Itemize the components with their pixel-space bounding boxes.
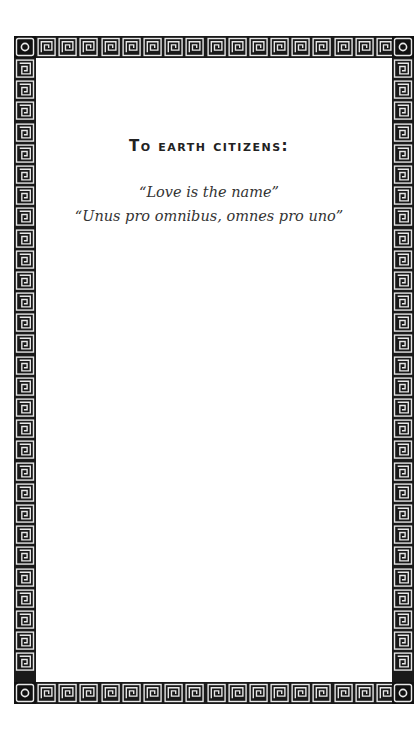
greek-key-tile-icon <box>392 651 414 672</box>
greek-key-tile-icon <box>57 36 78 58</box>
greek-key-tile-icon <box>14 291 36 312</box>
greek-key-tile-icon <box>14 461 36 482</box>
greek-key-tile-icon <box>14 630 36 651</box>
greek-key-tile-icon <box>14 503 36 524</box>
greek-key-tile-icon <box>354 682 375 704</box>
quote-line-2: “Unus pro omnibus, omnes pro uno” <box>0 208 418 224</box>
greek-key-tile-icon <box>392 270 414 291</box>
greek-key-tile-icon <box>14 482 36 503</box>
greek-key-tile-icon <box>14 567 36 588</box>
greek-key-tile-icon <box>392 588 414 609</box>
quote-line-1: “Love is the name” <box>0 184 418 200</box>
greek-key-tile-icon <box>14 376 36 397</box>
greek-key-tile-icon <box>392 228 414 249</box>
greek-key-tile-icon <box>392 439 414 460</box>
corner-circle-icon <box>14 36 36 58</box>
greek-key-tile-icon <box>14 355 36 376</box>
greek-key-tile-icon <box>121 682 142 704</box>
greek-key-tile-icon <box>392 58 414 79</box>
greek-key-tile-icon <box>36 36 57 58</box>
corner-circle-icon <box>392 682 414 704</box>
greek-key-tile-icon <box>392 249 414 270</box>
greek-key-tile-icon <box>392 312 414 333</box>
greek-key-tile-icon <box>206 682 227 704</box>
greek-key-tile-icon <box>14 79 36 100</box>
greek-key-tile-icon <box>392 291 414 312</box>
corner-circle-icon <box>392 36 414 58</box>
greek-key-tile-icon <box>184 682 205 704</box>
greek-key-tile-icon <box>227 682 248 704</box>
border-top <box>36 36 392 58</box>
greek-key-tile-icon <box>354 36 375 58</box>
greek-key-tile-icon <box>142 36 163 58</box>
greek-key-tile-icon <box>392 503 414 524</box>
greek-key-tile-icon <box>57 682 78 704</box>
greek-key-tile-icon <box>333 36 354 58</box>
greek-key-tile-icon <box>392 567 414 588</box>
greek-key-tile-icon <box>14 249 36 270</box>
greek-key-tile-icon <box>14 609 36 630</box>
greek-key-tile-icon <box>14 164 36 185</box>
greek-key-tile-icon <box>227 36 248 58</box>
greek-key-tile-icon <box>290 682 311 704</box>
greek-key-tile-icon <box>36 682 57 704</box>
greek-key-tile-icon <box>392 418 414 439</box>
greek-key-tile-icon <box>100 682 121 704</box>
greek-key-tile-icon <box>311 682 332 704</box>
dedication-heading: To earth citizens: <box>0 137 418 155</box>
greek-key-tile-icon <box>269 682 290 704</box>
greek-key-tile-icon <box>392 79 414 100</box>
greek-key-tile-icon <box>392 397 414 418</box>
greek-key-tile-icon <box>14 588 36 609</box>
greek-key-tile-icon <box>142 682 163 704</box>
greek-key-tile-icon <box>14 270 36 291</box>
greek-key-tile-icon <box>78 36 99 58</box>
greek-key-tile-icon <box>14 100 36 121</box>
greek-key-tile-icon <box>14 651 36 672</box>
greek-key-tile-icon <box>14 439 36 460</box>
greek-key-tile-icon <box>392 376 414 397</box>
greek-key-tile-icon <box>392 164 414 185</box>
greek-key-tile-icon <box>248 682 269 704</box>
greek-key-tile-icon <box>375 36 392 58</box>
greek-key-tile-icon <box>14 312 36 333</box>
greek-key-tile-icon <box>392 100 414 121</box>
greek-key-tile-icon <box>392 609 414 630</box>
greek-key-tile-icon <box>392 461 414 482</box>
greek-key-tile-icon <box>333 682 354 704</box>
greek-key-tile-icon <box>14 418 36 439</box>
greek-key-tile-icon <box>206 36 227 58</box>
corner-circle-icon <box>14 682 36 704</box>
greek-key-tile-icon <box>392 545 414 566</box>
greek-key-tile-icon <box>392 524 414 545</box>
greek-key-tile-icon <box>392 482 414 503</box>
greek-key-tile-icon <box>392 630 414 651</box>
greek-key-tile-icon <box>14 228 36 249</box>
greek-key-tile-icon <box>121 36 142 58</box>
greek-key-tile-icon <box>14 58 36 79</box>
greek-key-tile-icon <box>311 36 332 58</box>
greek-key-tile-icon <box>163 682 184 704</box>
greek-key-tile-icon <box>14 524 36 545</box>
greek-key-tile-icon <box>14 397 36 418</box>
greek-key-tile-icon <box>290 36 311 58</box>
greek-key-tile-icon <box>100 36 121 58</box>
greek-key-tile-icon <box>392 333 414 354</box>
greek-key-tile-icon <box>14 545 36 566</box>
border-bottom <box>36 682 392 704</box>
greek-key-tile-icon <box>78 682 99 704</box>
greek-key-tile-icon <box>248 36 269 58</box>
greek-key-tile-icon <box>163 36 184 58</box>
greek-key-tile-icon <box>392 355 414 376</box>
greek-key-tile-icon <box>14 333 36 354</box>
greek-key-tile-icon <box>375 682 392 704</box>
greek-key-tile-icon <box>269 36 290 58</box>
greek-key-tile-icon <box>184 36 205 58</box>
